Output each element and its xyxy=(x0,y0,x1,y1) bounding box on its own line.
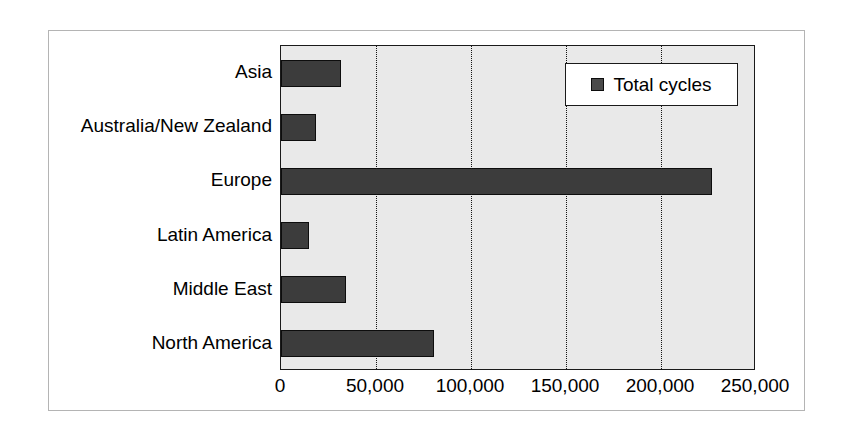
chart-legend: Total cycles xyxy=(565,63,738,106)
y-axis-category-labels: AsiaAustralia/New ZealandEuropeLatin Ame… xyxy=(40,45,272,370)
x-axis-tick-labels: 050,000100,000150,000200,000250,000 xyxy=(0,376,844,406)
x-axis-tick-label: 100,000 xyxy=(436,376,505,395)
y-axis-label: Australia/New Zealand xyxy=(81,116,272,135)
y-axis-label: North America xyxy=(152,333,272,352)
bar xyxy=(281,222,309,249)
x-axis-tick-label: 0 xyxy=(275,376,286,395)
y-axis-label: Europe xyxy=(211,170,272,189)
y-axis-label: Asia xyxy=(235,62,272,81)
bar xyxy=(281,168,712,195)
y-axis-label: Latin America xyxy=(157,225,272,244)
bar xyxy=(281,60,341,87)
bar-chart-figure: AsiaAustralia/New ZealandEuropeLatin Ame… xyxy=(0,0,844,437)
x-axis-tick-label: 250,000 xyxy=(721,376,790,395)
x-axis-tick-label: 50,000 xyxy=(346,376,404,395)
legend-label-total-cycles: Total cycles xyxy=(613,75,711,94)
x-axis-tick-label: 200,000 xyxy=(626,376,695,395)
x-axis-tick-label: 150,000 xyxy=(531,376,600,395)
legend-swatch-total-cycles xyxy=(591,78,604,91)
bar xyxy=(281,276,346,303)
bar xyxy=(281,114,316,141)
y-axis-label: Middle East xyxy=(173,279,272,298)
bar xyxy=(281,330,434,357)
